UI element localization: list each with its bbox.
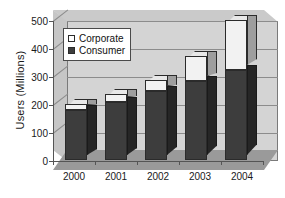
legend-label-consumer: Consumer (79, 45, 125, 56)
chart-legend[interactable]: Corporate Consumer (63, 28, 131, 61)
x-tick-label-2001: 2001 (96, 171, 136, 182)
legend-item-corporate[interactable]: Corporate (68, 33, 125, 44)
x-tick-label-2004: 2004 (222, 171, 262, 182)
x-tick-label-2000: 2000 (54, 171, 94, 182)
bar-chart: Users (Millions) (0, 0, 285, 198)
legend-swatch-consumer-icon (68, 47, 75, 54)
legend-label-corporate: Corporate (79, 33, 123, 44)
x-tick-label-2002: 2002 (138, 171, 178, 182)
x-axis-tick-labels: 2000 2001 2002 2003 2004 (0, 0, 285, 198)
x-tick-label-2003: 2003 (180, 171, 220, 182)
legend-item-consumer[interactable]: Consumer (68, 45, 125, 56)
legend-swatch-corporate-icon (68, 35, 75, 42)
